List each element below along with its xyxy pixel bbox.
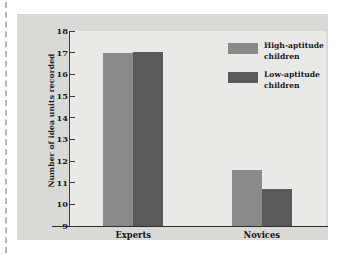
bar	[262, 189, 292, 226]
y-axis-tick-label: 17	[57, 48, 68, 58]
y-axis-tick-label: 15	[57, 91, 68, 101]
legend-label-low-aptitude: Low-aptitude children	[264, 70, 340, 91]
y-axis-tick-label: 10	[57, 199, 68, 209]
y-axis-tick-label: 9	[62, 221, 68, 231]
bar	[232, 170, 262, 226]
y-axis-tick-label: 12	[57, 156, 68, 166]
legend-label-line1: High-aptitude	[264, 41, 324, 50]
legend-entry-high-aptitude: High-aptitude children	[228, 42, 340, 68]
x-axis-line	[52, 226, 328, 227]
x-axis-label: Experts	[93, 230, 173, 240]
legend: High-aptitude children Low-aptitude chil…	[228, 42, 340, 100]
bar	[133, 52, 163, 226]
legend-label-line2: children	[264, 52, 300, 61]
page-edge-dashed-rule	[5, 2, 7, 253]
y-axis-tick-label: 18	[57, 26, 68, 36]
legend-swatch-low-aptitude	[228, 72, 258, 83]
legend-label-high-aptitude: High-aptitude children	[264, 41, 340, 62]
y-axis-tick-label: 14	[57, 113, 68, 123]
figure: Number of idea units recorded 1817161514…	[0, 0, 345, 255]
chart-panel: Number of idea units recorded 1817161514…	[17, 14, 328, 240]
y-axis-tick-label: 16	[57, 69, 68, 79]
legend-label-line2: children	[264, 81, 300, 90]
y-axis-tick-label: 13	[57, 134, 68, 144]
legend-swatch-high-aptitude	[228, 43, 258, 54]
legend-entry-low-aptitude: Low-aptitude children	[228, 71, 340, 97]
bar	[103, 53, 133, 226]
x-axis-label: Novices	[222, 230, 302, 240]
y-axis-tick-label: 11	[57, 178, 68, 188]
legend-label-line1: Low-aptitude	[264, 70, 320, 79]
